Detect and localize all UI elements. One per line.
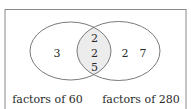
left-only-element: 3 bbox=[54, 47, 61, 60]
right-only-element: 2 bbox=[122, 47, 129, 60]
intersection-element: 2 bbox=[91, 32, 98, 45]
set-right-label: factors of 280 bbox=[102, 93, 179, 106]
intersection-element: 2 bbox=[91, 47, 98, 60]
venn-diagram: 3 2 2 5 2 7 factors of 60 factors of 280 bbox=[0, 0, 191, 109]
intersection-element: 5 bbox=[91, 61, 98, 74]
right-only-element: 7 bbox=[140, 47, 147, 60]
set-left-label: factors of 60 bbox=[12, 93, 82, 106]
